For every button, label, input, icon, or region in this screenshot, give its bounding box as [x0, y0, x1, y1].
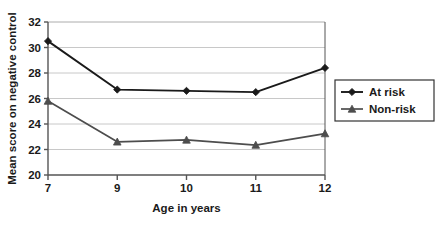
x-tick-label: 7	[45, 182, 51, 194]
y-tick-label: 24	[28, 118, 41, 130]
x-axis-title: Age in years	[152, 202, 220, 214]
y-tick-label: 28	[28, 67, 41, 79]
diamond-marker-point	[252, 89, 259, 96]
chart-canvas: 2022242628303279101112Age in yearsMean s…	[0, 0, 441, 225]
x-tick-label: 11	[250, 182, 263, 194]
x-tick-label: 10	[180, 182, 193, 194]
series-at-risk	[44, 38, 328, 96]
line-chart-figure: 2022242628303279101112Age in yearsMean s…	[0, 0, 441, 225]
gridlines	[48, 22, 325, 150]
diamond-marker-point	[321, 64, 328, 71]
series-line	[48, 41, 325, 92]
x-axis-ticks: 79101112	[45, 175, 332, 194]
legend-label: Non-risk	[369, 103, 416, 115]
y-axis-title: Mean score on negative control	[6, 12, 18, 185]
y-tick-label: 30	[28, 42, 41, 54]
x-tick-label: 12	[319, 182, 332, 194]
series-non-risk	[44, 97, 329, 148]
y-tick-label: 26	[28, 93, 41, 105]
legend-label: At risk	[369, 86, 405, 98]
chart-legend: At riskNon-risk	[335, 80, 434, 121]
y-tick-label: 32	[28, 16, 41, 28]
x-tick-label: 9	[114, 182, 120, 194]
diamond-marker-point	[183, 87, 190, 94]
y-tick-label: 20	[28, 169, 41, 181]
y-tick-label: 22	[28, 144, 41, 156]
